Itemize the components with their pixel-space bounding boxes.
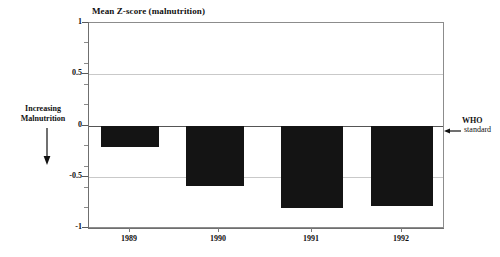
who-standard-annotation: WHO standard — [462, 116, 491, 134]
x-tick-1990 — [218, 228, 219, 232]
increasing-malnutrition-line1: Increasing — [0, 104, 86, 114]
chart-root: Mean Z-score (malnutrition) 1 0.5 — [0, 0, 500, 257]
left-arrow-icon — [444, 121, 462, 129]
x-label-1991: 1991 — [303, 234, 319, 243]
x-label-1990: 1990 — [210, 234, 226, 243]
y-axis-labels: 1 0.5 0 -0.5 -1 — [52, 22, 82, 228]
x-tick-1989 — [129, 228, 130, 232]
x-label-1992: 1992 — [393, 234, 409, 243]
bar-1990 — [186, 126, 244, 186]
x-axis-line — [88, 228, 444, 229]
y-label-minus-1: -1 — [56, 222, 82, 231]
bar-1992 — [371, 126, 433, 206]
who-standard-line2: standard — [462, 125, 491, 134]
chart-title: Mean Z-score (malnutrition) — [92, 6, 205, 16]
increasing-malnutrition-annotation: Increasing Malnutrition — [0, 104, 86, 124]
x-tick-1991 — [311, 228, 312, 232]
x-tick-1992 — [401, 228, 402, 232]
gridline-0.5 — [89, 74, 443, 75]
bar-1989 — [101, 126, 159, 147]
y-axis-line — [88, 22, 89, 228]
who-standard-line1: WHO — [462, 116, 491, 125]
y-label-0.5: 0.5 — [56, 68, 82, 77]
x-label-1989: 1989 — [121, 234, 137, 243]
down-arrow-icon — [42, 128, 52, 166]
bar-1991 — [281, 126, 343, 208]
y-label-1: 1 — [56, 17, 82, 26]
increasing-malnutrition-line2: Malnutrition — [0, 114, 86, 124]
plot-area — [88, 22, 444, 228]
y-label-minus-0.5: -0.5 — [56, 171, 82, 180]
y-axis-ticks — [82, 22, 88, 228]
